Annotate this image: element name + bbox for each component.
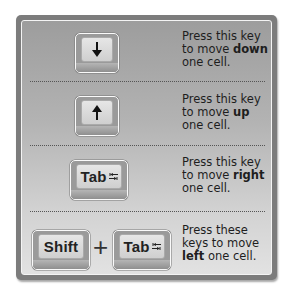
tab-arrows-icon xyxy=(109,172,118,181)
down-arrow-key xyxy=(75,33,119,73)
key-label: Tab xyxy=(123,238,149,255)
row-move-left: Shift + Tab xyxy=(22,214,271,280)
up-arrow-key xyxy=(75,96,119,136)
row-description: Press this key to move down one cell. xyxy=(182,30,272,69)
dotted-divider xyxy=(30,145,265,146)
direction-word: right xyxy=(233,168,265,182)
keyboard-navigation-panel: Press this key to move down one cell. Pr… xyxy=(16,15,277,280)
tab-key: Tab xyxy=(70,160,128,200)
dotted-divider xyxy=(30,211,265,212)
row-move-right: Tab Press this key to move right one cel… xyxy=(22,148,271,214)
row-description: Press these keys to move left one cell. xyxy=(182,224,272,263)
key-label: Tab xyxy=(80,168,106,185)
direction-word: up xyxy=(233,105,249,119)
row-move-down: Press this key to move down one cell. xyxy=(22,21,271,87)
direction-word: left xyxy=(182,249,204,263)
arrow-up-icon xyxy=(92,105,102,120)
row-description: Press this key to move up one cell. xyxy=(182,93,272,132)
panel-inner: Press this key to move down one cell. Pr… xyxy=(21,20,272,275)
direction-word: down xyxy=(233,42,268,56)
row-description: Press this key to move right one cell. xyxy=(182,156,272,195)
tab-arrows-icon xyxy=(152,242,161,251)
dotted-divider xyxy=(30,81,265,82)
arrow-down-icon xyxy=(92,42,102,57)
key-label: Shift xyxy=(44,238,78,255)
plus-sign: + xyxy=(93,232,108,263)
shift-key: Shift xyxy=(32,230,90,270)
tab-key: Tab xyxy=(113,230,171,270)
row-move-up: Press this key to move up one cell. xyxy=(22,84,271,150)
